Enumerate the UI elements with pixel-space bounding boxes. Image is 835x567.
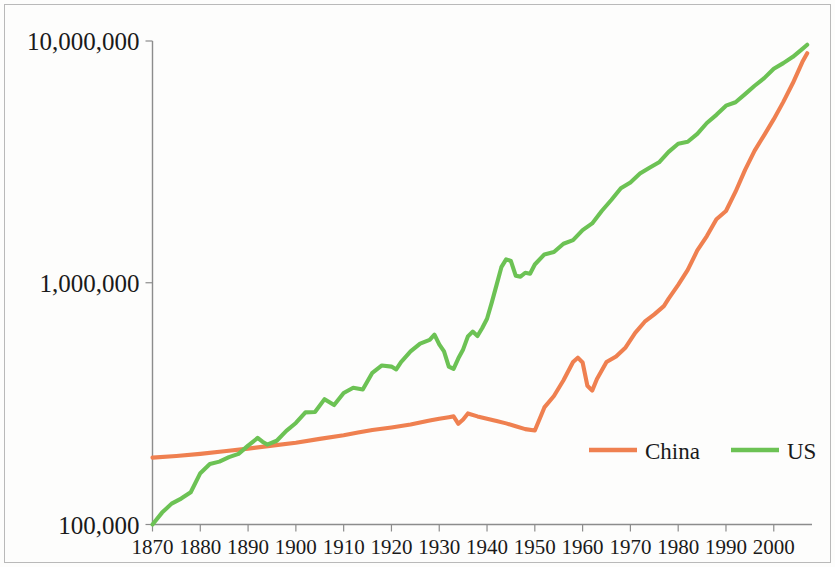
line-chart: 100,0001,000,00010,000,000 1870188018901… [0, 0, 835, 567]
x-tick-label: 1910 [323, 535, 365, 559]
x-tick-label: 1890 [227, 535, 269, 559]
x-tick-label: 1980 [657, 535, 699, 559]
chart-axes [153, 41, 813, 525]
legend-label-us: US [787, 439, 816, 464]
x-tick-label: 1930 [418, 535, 460, 559]
series-line-china [153, 53, 808, 457]
x-tick-label: 1940 [466, 535, 508, 559]
x-tick-label: 1970 [609, 535, 651, 559]
legend-label-china: China [645, 439, 700, 464]
x-tick-label: 1960 [562, 535, 604, 559]
series-line-us [153, 45, 808, 525]
y-tick-label: 10,000,000 [27, 28, 140, 55]
y-axis-tick-labels: 100,0001,000,00010,000,000 [27, 28, 140, 539]
x-tick-label: 1880 [179, 535, 221, 559]
x-tick-label: 1920 [370, 535, 412, 559]
x-tick-label: 1870 [132, 535, 174, 559]
x-tick-label: 1950 [514, 535, 556, 559]
y-tick-label: 1,000,000 [40, 270, 140, 297]
x-tick-label: 1990 [705, 535, 747, 559]
x-tick-label: 1900 [275, 535, 317, 559]
axis-spines [153, 41, 813, 525]
x-tick-label: 2000 [753, 535, 795, 559]
y-tick-label: 100,000 [58, 512, 139, 539]
chart-legend: ChinaUS [589, 439, 816, 464]
x-axis-tick-labels: 1870188018901900191019201930194019501960… [132, 535, 795, 559]
chart-series [153, 45, 808, 525]
chart-figure: 100,0001,000,00010,000,000 1870188018901… [0, 0, 835, 567]
